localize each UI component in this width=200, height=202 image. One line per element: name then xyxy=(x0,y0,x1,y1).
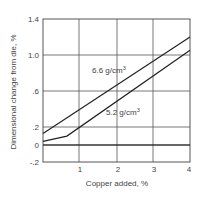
x-tick: 2 xyxy=(116,165,121,174)
y-tick: 0 xyxy=(35,141,40,150)
x-tick: 3 xyxy=(152,165,157,174)
series-label-6.6: 6.6 g/cm3 xyxy=(92,65,126,75)
y-tick: 1.0 xyxy=(28,51,40,60)
x-axis-label: Copper added, % xyxy=(86,179,148,188)
x-axis-ticks: 1 2 3 4 xyxy=(78,165,192,174)
y-axis-label: Dimensional change from die, % xyxy=(9,34,18,149)
plot-frame xyxy=(43,19,190,162)
series-label-5.2: 5.2 g/cm3 xyxy=(106,107,140,117)
y-tick: .6 xyxy=(32,87,39,96)
x-tick: 1 xyxy=(78,165,83,174)
series-line-0 xyxy=(43,37,190,133)
series-line-1 xyxy=(43,50,190,141)
x-tick: 4 xyxy=(187,165,192,174)
y-tick: .2 xyxy=(32,123,39,132)
plot-area xyxy=(43,19,190,162)
y-tick: 1.4 xyxy=(28,15,40,24)
series-layer xyxy=(43,37,190,141)
y-axis-ticks: 1.4 1.0 .6 .2 0 -.2 xyxy=(28,15,40,167)
chart: 1.4 1.0 .6 .2 0 -.2 1 2 3 4 Copper added… xyxy=(0,0,200,202)
y-tick: -.2 xyxy=(30,158,40,167)
